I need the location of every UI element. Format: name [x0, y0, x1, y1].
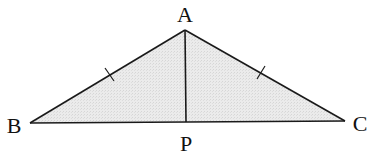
label-a: A — [177, 2, 193, 27]
altitude-ap — [185, 30, 186, 122]
triangle-diagram: A B C P — [0, 0, 370, 164]
label-p: P — [180, 131, 192, 156]
label-c: C — [353, 111, 368, 136]
triangle-abc-fill — [30, 30, 345, 123]
label-b: B — [7, 113, 22, 138]
